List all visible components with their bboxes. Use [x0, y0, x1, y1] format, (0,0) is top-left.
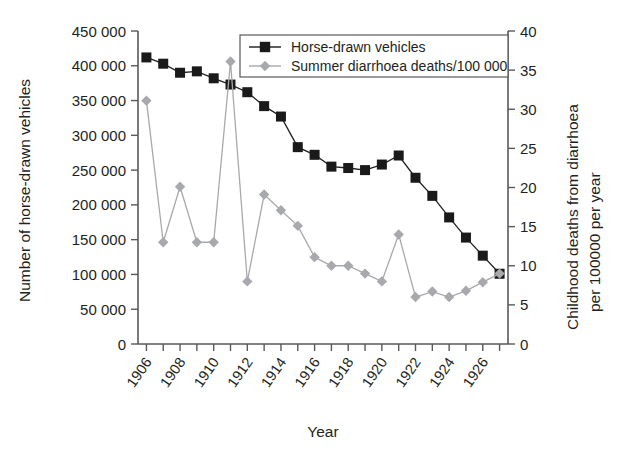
x-axis-tick-label: 1918: [325, 355, 357, 391]
data-point: [158, 237, 168, 247]
data-point: [427, 191, 437, 201]
data-point: [393, 229, 403, 239]
data-point: [377, 276, 387, 286]
x-axis-tick-label: 1916: [291, 355, 323, 391]
x-axis-title: Year: [307, 423, 338, 440]
data-point: [208, 237, 218, 247]
data-point: [360, 268, 370, 278]
legend-marker: [260, 42, 270, 52]
data-point: [478, 251, 488, 261]
data-point: [461, 286, 471, 296]
data-point: [259, 101, 269, 111]
y-axis-right-title: Childhood deaths from diarrhoea per 1000…: [564, 104, 603, 330]
data-point: [158, 59, 168, 69]
y-axis-left-tick-label: 350 000: [72, 92, 126, 109]
data-point: [293, 142, 303, 152]
data-point: [209, 73, 219, 83]
data-point: [410, 292, 420, 302]
chart-figure: Number of horse-drawn vehicles Childhood…: [0, 0, 634, 461]
data-point: [310, 150, 320, 160]
data-point: [225, 56, 235, 66]
y-axis-left-tick-label: 400 000: [72, 57, 126, 74]
y-axis-left-tick-label: 100 000: [72, 266, 126, 283]
x-axis-tick-label: 1906: [123, 355, 155, 391]
y-axis-left-tick-label: 250 000: [72, 162, 126, 179]
y-axis-left-tick-label: 450 000: [72, 23, 126, 40]
data-point: [192, 237, 202, 247]
chart-svg: Number of horse-drawn vehicles Childhood…: [0, 0, 634, 461]
y-axis-left-tick-label: 0: [118, 336, 126, 353]
series-summer-diarrhoea-deaths: [141, 56, 505, 302]
data-point: [360, 165, 370, 175]
legend-label: Horse-drawn vehicles: [291, 39, 426, 55]
y-axis-right-tick-label: 20: [520, 179, 537, 196]
data-point: [326, 162, 336, 172]
y-axis-left-ticks: 050 000100 000150 000200 000250 000300 0…: [72, 23, 138, 353]
x-axis-tick-label: 1924: [426, 355, 458, 391]
data-point: [141, 95, 151, 105]
x-axis-tick-label: 1920: [359, 355, 391, 391]
y-axis-left-tick-label: 200 000: [72, 196, 126, 213]
data-point: [427, 286, 437, 296]
data-point: [326, 261, 336, 271]
data-point: [444, 212, 454, 222]
data-point: [226, 80, 236, 90]
data-point: [175, 68, 185, 78]
data-point: [276, 112, 286, 122]
legend-label: Summer diarrhoea deaths/100 000: [291, 58, 508, 74]
y-axis-right-tick-label: 35: [520, 62, 537, 79]
y-axis-left-tick-label: 300 000: [72, 127, 126, 144]
x-axis-tick-label: 1926: [460, 355, 492, 391]
data-point: [411, 173, 421, 183]
y-axis-left-tick-label: 150 000: [72, 231, 126, 248]
y-axis-right-tick-label: 25: [520, 140, 537, 157]
data-point: [242, 276, 252, 286]
y-axis-right-tick-label: 30: [520, 101, 537, 118]
y-axis-left-title: Number of horse-drawn vehicles: [16, 79, 33, 302]
data-point: [461, 233, 471, 243]
x-axis-ticks: 1906190819101912191419161918192019221924…: [123, 344, 499, 390]
data-point: [444, 292, 454, 302]
x-axis-tick-label: 1908: [157, 355, 189, 391]
y-axis-right-tick-label: 40: [520, 23, 537, 40]
y-axis-right-tick-label: 5: [520, 296, 528, 313]
y-axis-right-tick-label: 15: [520, 218, 537, 235]
y-axis-right-tick-label: 10: [520, 257, 537, 274]
x-axis-title-label: Year: [307, 423, 338, 440]
data-point: [343, 261, 353, 271]
y-axis-left-title-label: Number of horse-drawn vehicles: [16, 79, 33, 302]
data-point: [343, 163, 353, 173]
chart-legend: Horse-drawn vehiclesSummer diarrhoea dea…: [240, 35, 508, 77]
data-point: [478, 277, 488, 287]
x-axis-tick-label: 1914: [258, 355, 290, 391]
data-point: [192, 66, 202, 76]
data-point: [377, 160, 387, 170]
data-point: [141, 52, 151, 62]
x-axis-tick-label: 1910: [191, 355, 223, 391]
x-axis-tick-label: 1912: [224, 355, 256, 391]
data-point: [242, 87, 252, 97]
series-layer: [141, 52, 505, 302]
data-point: [394, 151, 404, 161]
y-axis-right-tick-label: 0: [520, 336, 528, 353]
data-point: [309, 252, 319, 262]
y-axis-right-ticks: 0510152025303540: [508, 23, 537, 353]
series-line: [146, 62, 499, 298]
y-axis-right-title-line1: Childhood deaths from diarrhoea: [564, 104, 581, 330]
y-axis-left-tick-label: 50 000: [80, 301, 126, 318]
x-axis-tick-label: 1922: [392, 355, 424, 391]
data-point: [175, 182, 185, 192]
y-axis-right-title-line2: per 100000 per year: [586, 172, 603, 312]
